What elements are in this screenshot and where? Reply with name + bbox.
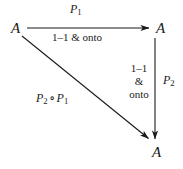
label-right-arrow-property-line2: &: [126, 75, 152, 88]
label-composition: P2∘P1: [36, 92, 68, 107]
label-right-arrow-property-line1: 1–1: [126, 62, 152, 75]
label-p2: P2: [163, 74, 175, 89]
label-p2-subscript: 2: [170, 78, 174, 88]
label-right-arrow-property: 1–1 & onto: [126, 62, 152, 101]
node-a-right: A: [156, 21, 165, 36]
label-top-arrow-property: 1–1 & onto: [52, 32, 102, 44]
label-right-arrow-property-line3: onto: [126, 88, 152, 101]
commutative-diagram: A A A P1 1–1 & onto P2 1–1 & onto P2∘P1: [0, 0, 183, 169]
node-a-bottom: A: [152, 145, 161, 160]
label-composition-second-base: P: [57, 91, 64, 105]
label-p1: P1: [70, 3, 82, 18]
node-a-left: A: [11, 21, 20, 36]
label-p1-subscript: 1: [77, 7, 81, 17]
label-composition-first-subscript: 2: [43, 96, 47, 106]
label-composition-second-subscript: 1: [64, 96, 68, 106]
composition-operator-icon: ∘: [48, 91, 57, 105]
